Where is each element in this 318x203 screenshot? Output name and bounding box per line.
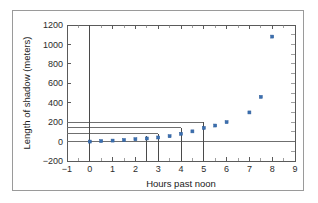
data-point	[225, 121, 228, 124]
x-axis-title: Hours past noon	[146, 178, 216, 189]
x-tick-label: 7	[247, 164, 252, 174]
x-tick-label: 1	[110, 164, 115, 174]
figure-root: −1 0 1 2 3 4 5 6 7 8 9 −200 0 200 400 60…	[0, 0, 318, 203]
data-point	[145, 137, 148, 140]
x-tick-label: 0	[87, 164, 92, 174]
y-axis-title: Length of shadow (meters)	[21, 36, 32, 149]
y-tick-label: 1200	[43, 20, 63, 30]
data-point	[100, 140, 103, 143]
data-point	[180, 132, 183, 135]
y-axis-ticks	[67, 25, 71, 161]
x-tick-labels: −1 0 1 2 3 4 5 6 7 8 9	[62, 164, 298, 174]
data-point	[248, 111, 251, 114]
y-axis-minor-ticks-right	[291, 35, 295, 152]
vertical-drop-lines	[90, 25, 204, 161]
data-point	[191, 130, 194, 133]
data-point	[168, 135, 171, 138]
data-point	[157, 136, 160, 139]
y-tick-label: 600	[48, 78, 63, 88]
x-tick-label: 5	[201, 164, 206, 174]
data-point	[202, 126, 205, 129]
y-tick-label: 1000	[43, 40, 63, 50]
y-tick-label: 0	[58, 137, 63, 147]
data-point	[214, 124, 217, 127]
y-tick-label: −200	[43, 156, 63, 166]
x-tick-label: 9	[292, 164, 297, 174]
y-tick-labels: −200 0 200 400 600 800 1000 1200	[43, 20, 63, 166]
data-point	[111, 139, 114, 142]
x-tick-label: 4	[178, 164, 183, 174]
x-tick-label: 6	[224, 164, 229, 174]
y-tick-label: 200	[48, 117, 63, 127]
data-point	[134, 138, 137, 141]
data-points	[88, 35, 273, 143]
x-tick-label: 2	[133, 164, 138, 174]
data-point	[271, 35, 274, 38]
x-tick-label: 8	[270, 164, 275, 174]
data-point	[88, 140, 91, 143]
x-tick-label: −1	[62, 164, 72, 174]
x-tick-label: 3	[156, 164, 161, 174]
scatter-plot: −1 0 1 2 3 4 5 6 7 8 9 −200 0 200 400 60…	[0, 0, 318, 203]
data-point	[123, 139, 126, 142]
data-point	[259, 95, 262, 98]
y-tick-label: 400	[48, 98, 63, 108]
y-tick-label: 800	[48, 59, 63, 69]
